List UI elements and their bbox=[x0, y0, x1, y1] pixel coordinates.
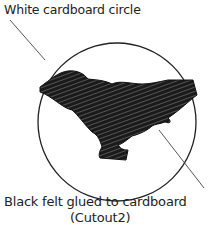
label-black-felt: Black felt glued to cardboard bbox=[4, 194, 187, 209]
label-cutout: (Cutout2) bbox=[70, 210, 130, 225]
diagram-canvas: White cardboard circle Black felt glued … bbox=[0, 0, 220, 232]
leader-line-circle bbox=[10, 20, 45, 60]
label-cardboard-circle: White cardboard circle bbox=[4, 2, 141, 17]
felt-bird-shape bbox=[40, 71, 197, 160]
leader-line-felt bbox=[159, 130, 204, 188]
